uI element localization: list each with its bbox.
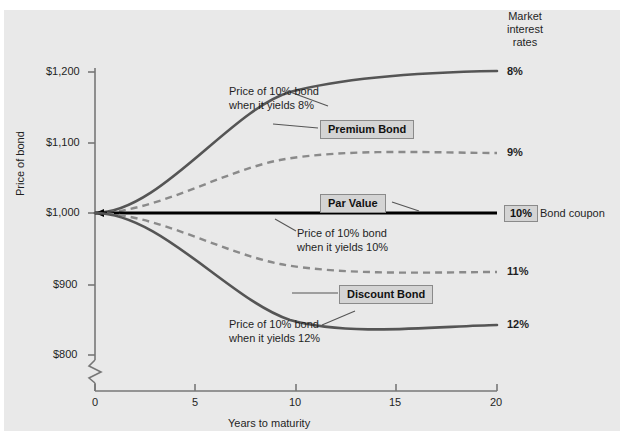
rate-label-11: 11% (507, 265, 528, 277)
x-axis-title: Years to maturity (228, 417, 310, 429)
callout-par-line2: when it yields 10% (297, 240, 388, 254)
tag-discount-bond: Discount Bond (339, 285, 433, 304)
y-axis-break-icon (89, 360, 101, 383)
x-tick-label-15: 15 (389, 396, 401, 408)
y-tick-label-1200: $1,200 (46, 65, 80, 77)
y-tick-label-800: $800 (53, 348, 77, 360)
curve-9-percent (95, 152, 497, 213)
x-tick-label-5: 5 (192, 396, 198, 408)
legend-header-line2: interest (495, 23, 555, 36)
callout-par-line1: Price of 10% bond (297, 226, 387, 240)
y-axis-title: Price of bond (14, 131, 26, 196)
curve-11-percent (95, 213, 497, 273)
x-tick-label-10: 10 (289, 396, 301, 408)
leader-par-tag (392, 202, 419, 211)
tag-premium-bond: Premium Bond (320, 120, 414, 139)
y-tick-label-1000: $1,000 (46, 206, 80, 218)
leader-discount-callout (322, 311, 355, 325)
rate-label-8: 8% (507, 65, 523, 77)
leader-par-callout (275, 219, 296, 231)
rate-label-12: 12% (507, 318, 529, 330)
rate-label-9: 9% (507, 146, 523, 158)
leader-premium-tag (273, 124, 318, 128)
callout-premium-line1: Price of 10% bond (229, 84, 319, 98)
legend-header-line3: rates (495, 36, 555, 49)
callout-premium-line2: when it yields 8% (229, 98, 314, 112)
y-tick-label-900: $900 (53, 278, 77, 290)
rate-label-10-box: 10% (504, 205, 538, 222)
y-tick-label-1100: $1,100 (46, 136, 80, 148)
bond-coupon-note: Bond coupon (540, 207, 605, 219)
callout-discount-line2: when it yields 12% (229, 331, 320, 345)
tag-par-value: Par Value (320, 194, 386, 213)
legend-header-line1: Market (495, 10, 555, 23)
x-tick-label-0: 0 (92, 396, 98, 408)
x-tick-label-20: 20 (490, 396, 502, 408)
callout-discount-line1: Price of 10% bond (229, 317, 319, 331)
bond-price-figure: $1,200 $1,100 $1,000 $900 $800 0 5 10 15… (0, 0, 624, 439)
